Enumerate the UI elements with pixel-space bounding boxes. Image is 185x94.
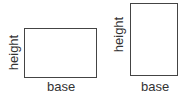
tall-rectangle-height-label: height — [112, 13, 125, 57]
wide-rectangle — [24, 28, 97, 78]
wide-rectangle-base-label: base — [47, 80, 75, 93]
tall-rectangle-base-label: base — [141, 80, 169, 93]
tall-rectangle — [130, 3, 178, 76]
wide-rectangle-height-label: height — [7, 31, 20, 75]
